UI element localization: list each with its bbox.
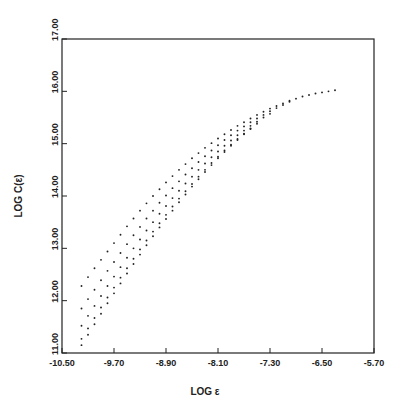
data-point	[152, 231, 154, 233]
y-tick-label: 14.00	[50, 175, 60, 198]
data-point	[94, 267, 96, 269]
data-point	[302, 96, 304, 98]
data-point	[120, 234, 122, 236]
data-point	[224, 133, 226, 135]
data-point	[237, 134, 239, 136]
y-axis-ticks: 11.0012.0013.0014.0015.0016.0017.00	[50, 18, 67, 355]
x-axis-title: LOG ε	[190, 386, 219, 397]
data-point	[87, 334, 89, 336]
scatter-chart: -10.50-9.70-8.90-8.10-7.30-6.50-5.70 11.…	[0, 0, 415, 414]
data-point	[113, 287, 115, 289]
data-point	[211, 164, 213, 166]
y-tick-label: 12.00	[50, 280, 60, 303]
data-point	[126, 243, 128, 245]
data-point	[185, 182, 187, 184]
data-point	[133, 263, 135, 265]
data-point	[256, 114, 258, 116]
data-point	[100, 307, 102, 309]
data-point	[191, 157, 193, 159]
data-point	[81, 308, 83, 310]
data-point	[107, 251, 109, 253]
data-point	[133, 247, 135, 249]
y-tick-label: 13.00	[50, 228, 60, 251]
data-point	[204, 171, 206, 173]
data-point	[152, 221, 154, 223]
data-point	[94, 317, 96, 319]
data-point	[159, 188, 161, 190]
data-point	[204, 147, 206, 149]
data-point	[139, 254, 141, 256]
data-point	[315, 92, 317, 94]
y-tick-label: 16.00	[50, 71, 60, 94]
data-point	[178, 198, 180, 200]
data-point	[321, 91, 323, 93]
data-point	[191, 176, 193, 178]
data-point	[133, 218, 135, 220]
data-point	[237, 125, 239, 127]
data-point	[107, 297, 109, 299]
data-point	[198, 176, 200, 178]
data-point	[146, 244, 148, 246]
x-tick-label: -8.90	[156, 358, 177, 368]
data-point	[269, 110, 271, 112]
data-point	[263, 117, 265, 119]
data-point	[165, 181, 167, 183]
data-point	[146, 218, 148, 220]
data-point	[87, 298, 89, 300]
data-point	[328, 90, 330, 92]
x-tick-label: -7.30	[260, 358, 281, 368]
data-point	[133, 234, 135, 236]
data-point	[334, 89, 336, 91]
data-point	[94, 323, 96, 325]
y-tick-label: 17.00	[50, 18, 60, 41]
data-point	[159, 226, 161, 228]
data-point	[178, 201, 180, 203]
data-point	[191, 167, 193, 169]
data-point	[107, 285, 109, 287]
plot-frame	[62, 39, 374, 353]
data-point	[81, 344, 83, 346]
data-point	[120, 266, 122, 268]
data-point	[217, 144, 219, 146]
x-tick-label: -9.70	[104, 358, 125, 368]
data-point	[139, 238, 141, 240]
data-point	[276, 107, 278, 109]
data-point	[217, 151, 219, 153]
data-point	[100, 313, 102, 315]
data-point	[94, 289, 96, 291]
data-point	[211, 150, 213, 152]
data-point	[81, 338, 83, 340]
data-point	[146, 240, 148, 242]
data-point	[217, 157, 219, 159]
data-point	[250, 121, 252, 123]
data-point	[113, 276, 115, 278]
x-tick-label: -6.50	[312, 358, 333, 368]
data-point	[178, 190, 180, 192]
data-point	[100, 279, 102, 281]
data-point	[230, 145, 232, 147]
data-point	[113, 261, 115, 263]
data-point	[139, 210, 141, 212]
data-point	[120, 277, 122, 279]
data-point	[172, 206, 174, 208]
data-point	[165, 195, 167, 197]
data-point	[172, 210, 174, 212]
data-point	[107, 302, 109, 304]
data-point	[172, 187, 174, 189]
data-point	[198, 161, 200, 163]
data-point	[211, 156, 213, 158]
data-point	[94, 305, 96, 307]
data-point	[81, 325, 83, 327]
data-point	[269, 113, 271, 115]
data-point	[120, 252, 122, 254]
data-point	[133, 258, 135, 260]
data-point	[178, 169, 180, 171]
data-point	[165, 214, 167, 216]
data-point	[172, 175, 174, 177]
data-point	[146, 202, 148, 204]
data-point	[263, 111, 265, 113]
data-point	[243, 130, 245, 132]
data-point	[159, 202, 161, 204]
data-point	[81, 285, 83, 287]
data-point	[224, 145, 226, 147]
